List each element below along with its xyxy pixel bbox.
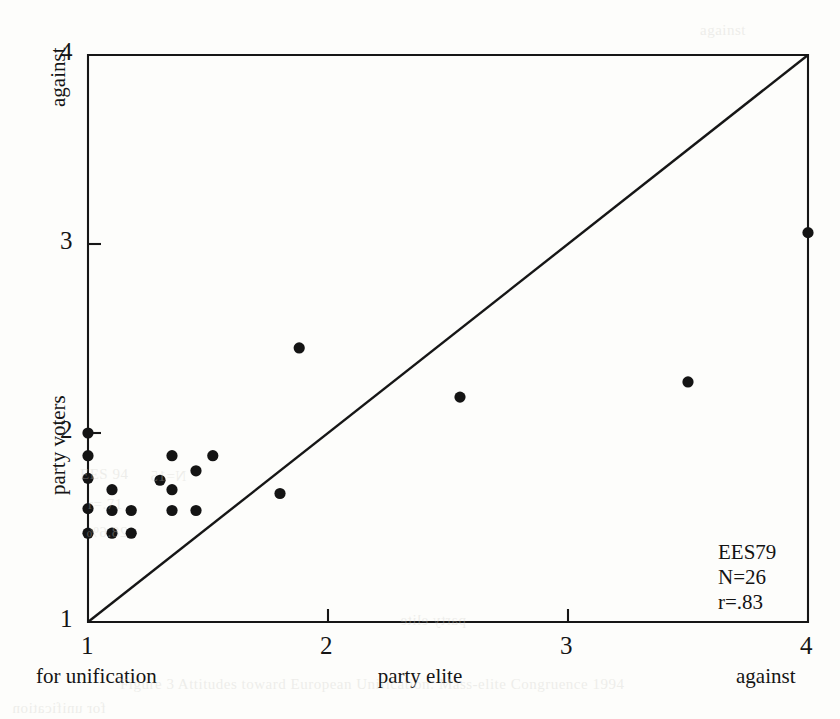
figure-scatterplot: 4 3 2 1 1 2 3 4 against party voters for…: [0, 0, 840, 719]
x-tick-label-4: 4: [800, 632, 813, 660]
y-tick-label-1: 1: [60, 605, 73, 633]
annotation-n: N=26: [718, 565, 776, 590]
y-tick-label-3: 3: [60, 227, 73, 255]
x-axis-label: party elite: [0, 664, 840, 689]
x-tick-label-1: 1: [81, 632, 94, 660]
plot-canvas: [0, 0, 840, 719]
statistics-annotation: EES79 N=26 r=.83: [718, 540, 776, 615]
x-tick-label-2: 2: [320, 632, 333, 660]
y-axis-high-label: against: [46, 48, 71, 107]
identity-reference-line: [88, 55, 808, 622]
annotation-r: r=.83: [718, 590, 776, 615]
annotation-dataset: EES79: [718, 540, 776, 565]
x-axis-high-label: against: [736, 664, 795, 689]
y-axis-label: party voters: [46, 395, 71, 495]
scatter-points: [82, 227, 813, 539]
x-tick-label-3: 3: [560, 632, 573, 660]
